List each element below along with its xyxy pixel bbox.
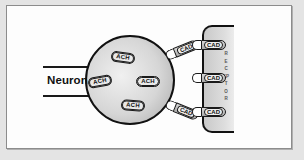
cad-body: CAD [201,40,226,50]
ach-label: ACH [112,52,135,64]
axon-bottom-line [43,95,89,97]
cad-body: CAD [201,73,226,83]
cad-cap [192,107,201,117]
cad-molecule-bound: CAD [192,107,226,117]
ach-label: ACH [137,77,159,86]
cad-cap [192,73,201,83]
cad-label: CAD [204,108,223,116]
axon-top-line [43,66,89,68]
ach-label: ACH [122,100,144,110]
ach-molecule: ACH [136,76,160,87]
cad-molecule-bound: CAD [192,73,226,83]
cad-molecule-bound: CAD [192,40,226,50]
cad-body: CAD [201,107,226,117]
cad-cap [192,40,201,50]
ach-molecule: ACH [121,99,146,112]
neuron-label: Neuron [47,74,88,86]
cad-label: CAD [204,41,223,49]
cad-label: CAD [204,74,223,82]
